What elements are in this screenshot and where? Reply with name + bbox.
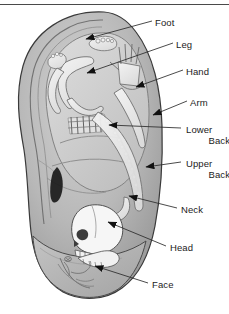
label-leg: Leg	[176, 39, 192, 50]
label-arm: Arm	[190, 97, 208, 108]
label-lower-back-line2: Back	[186, 135, 229, 146]
fetus-head-skull	[72, 205, 123, 268]
label-head: Head	[170, 242, 193, 253]
label-hand: Hand	[186, 66, 209, 77]
label-lower-back-line1: Lower	[186, 124, 229, 135]
label-upper-back-line1: Upper	[186, 158, 229, 169]
label-upper-back: Upper Back	[186, 158, 229, 180]
label-neck: Neck	[181, 204, 203, 215]
diagram-page: Foot Leg Hand Arm Lower Back Upper Back …	[0, 0, 229, 314]
label-upper-back-line2: Back	[186, 169, 229, 180]
label-lower-back: Lower Back	[186, 124, 229, 146]
label-foot: Foot	[155, 17, 174, 28]
ear-reflexology-figure	[0, 0, 229, 314]
label-face: Face	[152, 279, 174, 290]
